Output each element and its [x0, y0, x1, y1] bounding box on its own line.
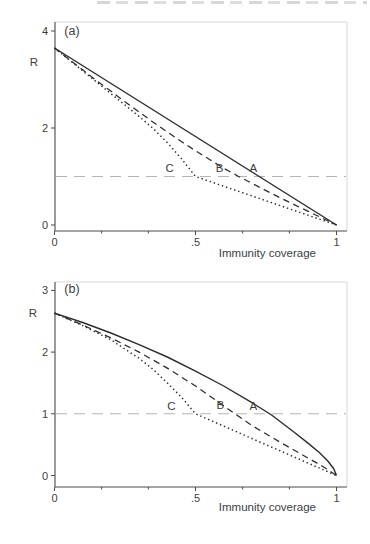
series-a-line — [55, 313, 337, 475]
panel-a-label: (a) — [64, 24, 79, 38]
series-b-line — [55, 313, 337, 475]
x-axis-tick-label: 0 — [51, 236, 57, 248]
x-axis-tick-label: .5 — [191, 236, 200, 248]
x-axis-tick-label: 1 — [333, 492, 339, 504]
panel-b-x-axis-title: Immunity coverage — [219, 501, 316, 513]
panel-b-label: (b) — [64, 282, 79, 296]
y-axis-tick-label: 4 — [42, 25, 48, 37]
plot-border — [55, 282, 347, 487]
series-c-label: C — [167, 400, 175, 412]
dual-panel-figure: (a) R Immunity coverage 0240.51ABC (b) R… — [0, 0, 370, 544]
x-axis-tick-label: .5 — [191, 492, 200, 504]
series-a-label: A — [249, 400, 257, 412]
series-b-label: B — [216, 399, 224, 411]
y-axis-tick-label: 1 — [42, 408, 48, 420]
axis-lines — [55, 282, 347, 487]
series-a-label: A — [249, 162, 257, 174]
x-axis-tick-label: 0 — [51, 492, 57, 504]
x-axis-tick-label: 1 — [333, 236, 339, 248]
series-c-label: C — [165, 162, 173, 174]
series-c-line — [55, 313, 337, 475]
panel-a-x-axis-title: Immunity coverage — [219, 247, 316, 259]
panel-a-y-axis-title: R — [30, 56, 38, 68]
y-axis-tick-label: 2 — [42, 346, 48, 358]
y-axis-tick-label: 0 — [42, 219, 48, 231]
plot-border — [55, 22, 347, 231]
axis-lines — [55, 22, 347, 231]
figure-panel-a: (a) R Immunity coverage 0240.51ABC — [30, 22, 347, 259]
series-b-label: B — [216, 162, 224, 174]
journal-figure-page: (a) R Immunity coverage 0240.51ABC (b) R… — [0, 0, 370, 544]
y-axis-tick-label: 0 — [42, 470, 48, 482]
series-a-line — [55, 48, 337, 225]
y-axis-tick-label: 2 — [42, 122, 48, 134]
figure-panel-b: (b) R Immunity coverage 01230.51ABC — [29, 282, 347, 513]
panel-b-y-axis-title: R — [29, 307, 37, 319]
y-axis-tick-label: 3 — [42, 284, 48, 296]
